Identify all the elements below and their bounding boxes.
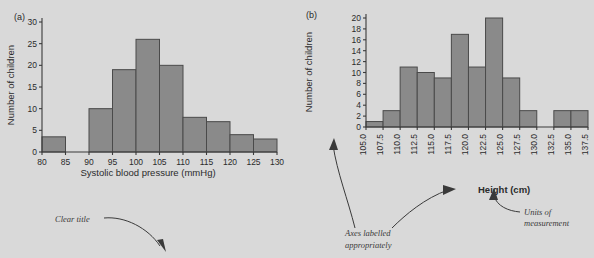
bar-117.5-120.0 (451, 34, 468, 127)
y-tick-label: 2 (356, 111, 361, 121)
panel-b-x-axis-title: Height (cm) (478, 184, 530, 195)
bar-115.0-117.5 (434, 78, 451, 127)
x-tick-label: 107.5 (375, 134, 385, 156)
x-tick-label: 130.0 (529, 134, 539, 156)
x-tick-label: 100 (129, 157, 143, 167)
x-tick-label: 125 (246, 157, 260, 167)
bar-125.0-127.5 (503, 78, 520, 127)
y-tick-label: 16 (352, 35, 362, 45)
x-tick-label: 135.0 (563, 134, 573, 156)
bar-107.5-110.0 (383, 111, 400, 127)
y-tick-label: 8 (356, 78, 361, 88)
bar-95-100 (113, 70, 137, 152)
x-tick-label: 132.5 (546, 134, 556, 156)
y-tick-label: 10 (28, 104, 38, 114)
bar-132.5-135.0 (554, 111, 571, 127)
bar-120.0-122.5 (468, 67, 485, 127)
bar-105-110 (160, 65, 184, 152)
y-tick-label: 0 (356, 122, 361, 132)
chart-panel-a: (a) 80859095100105110115120125130 051015… (0, 0, 300, 185)
x-tick-label: 105 (152, 157, 166, 167)
annotation-units-line1: Units of (524, 207, 553, 217)
y-tick-label: 30 (28, 17, 38, 27)
annotation-clear-title-text: Clear title (55, 214, 90, 224)
y-tick-label: 25 (28, 39, 38, 49)
bar-90-95 (89, 109, 113, 152)
bar-120-125 (230, 135, 254, 152)
bar-115-120 (207, 122, 231, 152)
annotation-units-line2: measurement (524, 218, 570, 228)
x-tick-label: 120 (223, 157, 237, 167)
annotation-clear-title-arrowhead (157, 239, 166, 252)
bar-122.5-125.0 (486, 18, 503, 127)
panel-b-y-axis-title: Number of children (303, 32, 314, 112)
panel-a-x-axis-title: Systolic blood pressure (mmHg) (80, 167, 215, 178)
x-tick-label: 120.0 (460, 134, 470, 156)
x-tick-label: 137.5 (580, 134, 590, 156)
x-tick-label: 125.0 (495, 134, 505, 156)
x-tick-label: 90 (84, 157, 94, 167)
bar-112.5-115.0 (417, 73, 434, 128)
annotation-axes-labelled-line1: Axes labelled (344, 228, 391, 238)
chart-panel-b: (b) 105.0107.5110.0112.5115.0117.5120.01… (300, 0, 594, 200)
y-tick-label: 0 (32, 147, 37, 157)
x-tick-label: 112.5 (409, 134, 419, 155)
panel-b-y-tick-labels: 02468101214161820 (352, 13, 362, 132)
y-tick-label: 15 (28, 82, 38, 92)
y-tick-label: 14 (352, 46, 362, 56)
x-tick-label: 115.0 (426, 134, 436, 155)
x-tick-label: 80 (37, 157, 47, 167)
x-tick-label: 110 (176, 157, 190, 167)
bar-80-85 (42, 137, 66, 152)
bar-100-105 (136, 39, 160, 152)
x-tick-label: 130 (270, 157, 284, 167)
x-tick-label: 127.5 (512, 134, 522, 156)
x-tick-label: 117.5 (443, 134, 453, 155)
panel-a-y-tick-labels: 051015202530 (28, 17, 38, 157)
panel-a-y-axis-title: Number of children (5, 45, 16, 125)
x-tick-label: 85 (61, 157, 71, 167)
bar-110-115 (183, 117, 207, 152)
panel-a-x-tick-labels: 80859095100105110115120125130 (37, 157, 284, 167)
panel-b-bars (366, 18, 588, 127)
x-tick-label: 122.5 (478, 134, 488, 156)
panel-a-bars (42, 39, 277, 152)
panel-b-x-tick-labels: 105.0107.5110.0112.5115.0117.5120.0122.5… (358, 134, 590, 156)
x-tick-label: 105.0 (358, 134, 368, 156)
bar-105.0-107.5 (366, 122, 383, 127)
bar-110.0-112.5 (400, 67, 417, 127)
annotation-axes-labelled-line2: appropriately (345, 240, 392, 250)
panel-a-letter: (a) (14, 12, 25, 22)
bar-125-130 (254, 139, 278, 152)
bar-135.0-137.5 (571, 111, 588, 127)
annotation-clear-title-arrow (104, 218, 160, 246)
x-tick-label: 95 (108, 157, 118, 167)
x-tick-label: 115 (200, 157, 214, 167)
figure-root: (a) 80859095100105110115120125130 051015… (0, 0, 594, 258)
y-tick-label: 6 (356, 89, 361, 99)
y-tick-label: 18 (352, 24, 362, 34)
x-tick-label: 110.0 (392, 134, 402, 155)
panel-b-letter: (b) (306, 10, 317, 20)
y-tick-label: 10 (352, 68, 362, 78)
y-tick-label: 20 (352, 13, 362, 23)
y-tick-label: 4 (356, 100, 361, 110)
y-tick-label: 5 (32, 125, 37, 135)
y-tick-label: 20 (28, 60, 38, 70)
y-tick-label: 12 (352, 57, 362, 67)
bar-127.5-130.0 (520, 111, 537, 127)
